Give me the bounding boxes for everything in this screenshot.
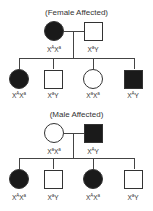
child-line: [134, 58, 135, 69]
child-female-affected: [9, 69, 29, 89]
parent-female-affected: [44, 21, 64, 41]
genotype-label: XaY: [40, 193, 66, 201]
child-female-unaffected: [83, 69, 103, 89]
genotype-label: XaY: [120, 193, 146, 201]
pedigree-title: (Male Affected): [0, 110, 153, 119]
child-line: [19, 158, 20, 169]
genotype-label: XAY: [80, 147, 106, 155]
child-line: [53, 58, 54, 69]
child-male-unaffected: [124, 170, 143, 189]
genotype-label: XAXa: [6, 91, 32, 99]
mating-line: [64, 133, 84, 134]
child-male-unaffected: [44, 170, 63, 189]
sibship-line: [19, 58, 135, 59]
genotype-label: XaY: [80, 45, 106, 53]
child-female-affected: [83, 169, 103, 189]
child-line: [93, 58, 94, 69]
descent-line: [73, 31, 74, 58]
genotype-label: XaXa: [80, 91, 106, 99]
child-line: [53, 158, 54, 169]
child-line: [19, 58, 20, 69]
parent-female-unaffected: [44, 123, 64, 143]
genotype-label: XaXa: [41, 147, 67, 155]
mating-line: [64, 31, 84, 32]
child-male-affected: [124, 70, 143, 89]
pedigree-title: (Female Affected): [0, 8, 153, 17]
genotype-label: XaY: [40, 91, 66, 99]
child-male-unaffected: [44, 70, 63, 89]
genotype-label: XAXa: [80, 193, 106, 201]
child-line: [134, 158, 135, 169]
parent-male-unaffected: [84, 22, 103, 41]
child-line: [93, 158, 94, 169]
descent-line: [73, 133, 74, 158]
sibship-line: [19, 158, 135, 159]
genotype-label: XAY: [120, 91, 146, 99]
child-female-affected: [9, 169, 29, 189]
parent-male-affected: [84, 124, 103, 143]
genotype-label: XAXa: [6, 193, 32, 201]
genotype-label: XAXa: [41, 45, 67, 53]
